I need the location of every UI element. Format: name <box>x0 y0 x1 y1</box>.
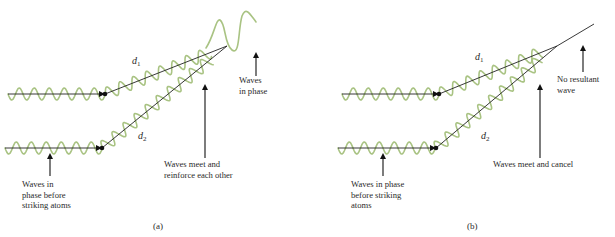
diffracted-ray-2 <box>436 46 557 148</box>
panel-b-caption: (b) <box>467 221 478 231</box>
result-label-text: wave <box>557 85 575 95</box>
panel-a-incoming-label: Waves inphase beforestriking atoms <box>22 156 72 210</box>
panel-a-result-label: Wavesin phase <box>239 55 268 96</box>
atom-dot <box>434 146 439 151</box>
resultant-wave <box>206 11 256 51</box>
diffracted-wave-1 <box>439 49 542 95</box>
panel-a-caption: (a) <box>153 221 163 231</box>
x-ray-diffraction-diagram: d1 d2 Waves inphase beforestriking atoms… <box>0 0 615 237</box>
result-label-text: Waves <box>239 75 262 85</box>
panel-a-d1-label: d1 <box>132 55 141 68</box>
result-label-text: in phase <box>239 86 268 96</box>
panel-b-meet-label: Waves meet and cancel <box>493 87 574 169</box>
panel-a-meet-label: Waves meet andreinforce each other <box>164 87 233 180</box>
meet-label-text: reinforce each other <box>164 170 233 180</box>
diffracted-ray-1 <box>105 46 227 94</box>
panel-a-d2-label: d2 <box>138 130 147 143</box>
incoming-label-text: before striking <box>351 190 402 200</box>
resultant-line <box>557 24 594 46</box>
incoming-label-text: atoms <box>351 200 372 210</box>
incoming-label-text: Waves in <box>22 179 54 189</box>
diffracted-ray-2 <box>102 46 227 148</box>
incoming-label-text: phase before <box>22 190 66 200</box>
atom-dot <box>437 92 442 97</box>
atom-dot <box>100 146 105 151</box>
result-label-text: No resultant <box>557 74 600 84</box>
panel-b-waves <box>338 49 542 154</box>
incoming-label-text: Waves in phase <box>351 179 404 189</box>
panel-a-waves <box>5 11 256 154</box>
incoming-label-text: striking atoms <box>22 200 72 210</box>
panel-b: d1 d2 Waves in phasebefore strikingatoms… <box>338 24 600 231</box>
panel-b-incoming-label: Waves in phasebefore strikingatoms <box>351 156 404 210</box>
meet-label-text: Waves meet and <box>164 159 221 169</box>
atom-dot <box>103 92 108 97</box>
panel-b-d2-label: d2 <box>481 130 490 143</box>
panel-a: d1 d2 Waves inphase beforestriking atoms… <box>5 11 268 231</box>
diffracted-ray-1 <box>439 46 557 94</box>
panel-b-result-label: No resultantwave <box>557 48 600 95</box>
meet-label-text: Waves meet and cancel <box>493 159 574 169</box>
panel-b-d1-label: d1 <box>475 51 484 64</box>
